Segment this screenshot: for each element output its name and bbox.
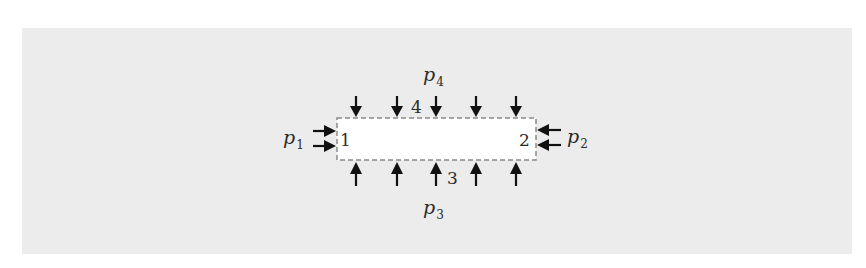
top-pressure-arrows <box>350 96 522 117</box>
arrow-down-icon <box>350 96 362 117</box>
surface-label-4: 4 <box>411 97 422 117</box>
pressure-label-p1: p1 <box>283 126 304 152</box>
arrow-left-icon <box>537 139 561 151</box>
arrow-down-icon <box>430 96 442 117</box>
pressure-label-p4: p4 <box>423 63 444 89</box>
right-pressure-arrows <box>537 124 561 151</box>
surface-label-2: 2 <box>519 130 530 150</box>
arrow-up-icon <box>391 162 403 186</box>
control-volume-diagram: p1 p2 p3 p4 1 2 3 4 <box>0 0 866 268</box>
left-pressure-arrows <box>313 125 336 152</box>
bottom-pressure-arrows <box>350 162 522 186</box>
pressure-label-p2: p2 <box>567 125 588 151</box>
arrow-down-icon <box>391 96 403 117</box>
arrow-down-icon <box>510 96 522 117</box>
arrow-up-icon <box>430 162 442 186</box>
pressure-label-p3: p3 <box>423 196 444 222</box>
surface-label-3: 3 <box>447 168 458 188</box>
arrow-up-icon <box>350 162 362 186</box>
arrow-right-icon <box>313 140 336 152</box>
arrow-up-icon <box>470 162 482 186</box>
control-volume-box <box>337 118 536 160</box>
arrow-down-icon <box>470 96 482 117</box>
arrow-left-icon <box>537 124 561 136</box>
arrow-right-icon <box>313 125 336 137</box>
arrow-up-icon <box>510 162 522 186</box>
surface-label-1: 1 <box>340 130 351 150</box>
